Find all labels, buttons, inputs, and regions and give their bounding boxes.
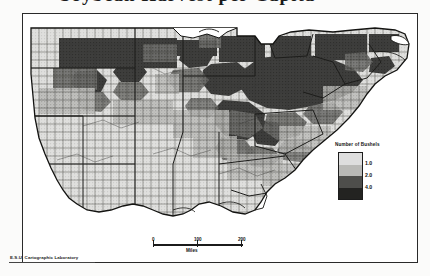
cartographic-credit: E.S.U. Cartographic Laboratory [10,255,78,260]
legend-label-3: 4.0 [365,184,372,190]
legend-label-2: 2.0 [365,172,372,178]
choropleth-map [23,14,417,262]
legend-swatch-box [338,152,363,200]
legend-swatch-class-3 [339,176,362,188]
map-neatline: Number of Bushels 1.0 2.0 4.0 0 100 200 … [22,13,418,263]
legend-swatch-class-4 [339,188,362,200]
page-title-clipped: Soybean Harvest per Capita [60,0,360,9]
scale-unit-label: Miles [186,248,198,253]
scale-label-100: 100 [194,237,202,242]
page-title-text: Soybean Harvest per Capita [60,0,360,6]
scale-label-200: 200 [238,237,246,242]
scale-bar: 0 100 200 Miles [153,237,245,255]
legend-label-1: 1.0 [365,160,372,166]
scale-label-0: 0 [152,237,155,242]
legend-title: Number of Bushels [335,142,380,147]
legend-swatch-class-2 [339,165,362,177]
map-canvas [23,14,417,262]
legend: Number of Bushels 1.0 2.0 4.0 [335,141,399,203]
credit-underline [9,262,95,263]
map-page: Soybean Harvest per Capita [0,0,430,276]
legend-swatch-class-1 [339,153,362,165]
